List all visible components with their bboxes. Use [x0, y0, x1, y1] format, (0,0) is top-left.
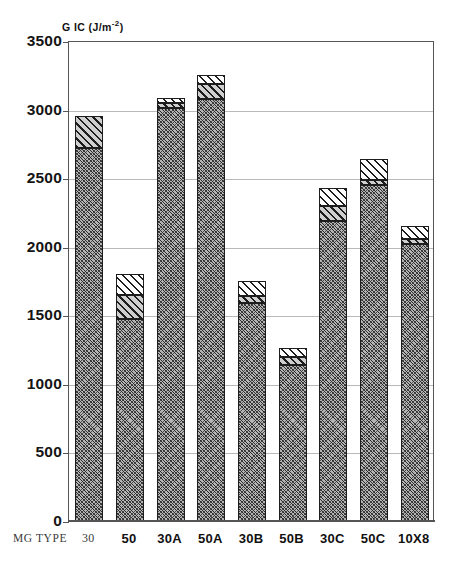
x-axis-label-50: 50 [107, 531, 151, 546]
chart-canvas: G IC (J/m-2) MG TYPE 3500300025002000150… [0, 0, 457, 582]
bar-50C [360, 159, 388, 521]
y-axis-label-1500: 1500 [2, 306, 62, 324]
y-axis-label-2500: 2500 [2, 169, 62, 187]
bar-segment-middle-10X8 [401, 239, 429, 244]
bar-30C [319, 188, 347, 521]
bar-segment-upper-10X8 [401, 226, 429, 239]
x-axis-label-10X8: 10X8 [392, 531, 436, 546]
bar-segment-middle-50A [197, 84, 225, 99]
gridline-3000 [69, 111, 433, 112]
y-tick-3000 [63, 111, 69, 112]
bar-segment-lower-30B [238, 303, 266, 521]
y-axis-title-close: ) [120, 21, 124, 33]
bar-30 [75, 116, 103, 521]
bar-segment-lower-50A [197, 99, 225, 521]
x-axis-label-30: 30 [66, 531, 110, 546]
y-tick-3500 [63, 42, 69, 43]
bar-segment-middle-30 [75, 116, 103, 148]
y-tick-1500 [63, 316, 69, 317]
y-axis-label-3500: 3500 [2, 32, 62, 50]
bar-50B [279, 348, 307, 521]
bar-segment-middle-50B [279, 357, 307, 365]
bar-segment-lower-30 [75, 148, 103, 521]
bar-30B [238, 281, 266, 521]
y-tick-1000 [63, 385, 69, 386]
bar-segment-middle-30B [238, 296, 266, 303]
y-axis-label-3000: 3000 [2, 101, 62, 119]
x-axis-label-30A: 30A [148, 531, 192, 546]
bar-segment-lower-50 [116, 319, 144, 521]
bar-segment-lower-30A [157, 108, 185, 521]
y-tick-2000 [63, 248, 69, 249]
bar-segment-upper-30A [157, 98, 185, 103]
y-tick-2500 [63, 179, 69, 180]
bar-10X8 [401, 226, 429, 521]
bar-segment-lower-10X8 [401, 244, 429, 521]
bar-segment-upper-50A [197, 75, 225, 83]
bar-segment-middle-50 [116, 295, 144, 320]
y-axis-label-0: 0 [2, 512, 62, 530]
bar-segment-lower-50B [279, 365, 307, 521]
bar-segment-lower-30C [319, 221, 347, 521]
bar-segment-upper-50C [360, 159, 388, 180]
y-tick-0 [63, 522, 69, 523]
bar-segment-lower-50C [360, 185, 388, 521]
y-tick-500 [63, 453, 69, 454]
bar-segment-middle-30A [157, 103, 185, 108]
x-axis-row-label: MG TYPE [13, 532, 67, 544]
x-axis-label-50C: 50C [351, 531, 395, 546]
bar-50A [197, 75, 225, 521]
bar-segment-upper-30C [319, 188, 347, 206]
y-axis-label-1000: 1000 [2, 375, 62, 393]
bar-segment-middle-30C [319, 206, 347, 220]
bar-segment-upper-30B [238, 281, 266, 296]
y-axis-label-500: 500 [2, 443, 62, 461]
bar-30A [157, 98, 185, 521]
y-axis-label-2000: 2000 [2, 238, 62, 256]
bar-50 [116, 274, 144, 521]
y-axis-title-base: G IC (J/m [62, 21, 112, 33]
x-axis-label-30B: 30B [229, 531, 273, 546]
x-axis-line [68, 520, 435, 522]
y-axis-title-exponent: -2 [112, 19, 120, 28]
x-axis-label-50A: 50A [188, 531, 232, 546]
x-axis-label-30C: 30C [310, 531, 354, 546]
y-axis-title: G IC (J/m-2) [62, 19, 124, 33]
plot-area [68, 41, 434, 521]
bar-segment-upper-50B [279, 348, 307, 358]
bar-segment-middle-50C [360, 180, 388, 185]
bar-segment-upper-50 [116, 274, 144, 295]
x-axis-label-50B: 50B [270, 531, 314, 546]
